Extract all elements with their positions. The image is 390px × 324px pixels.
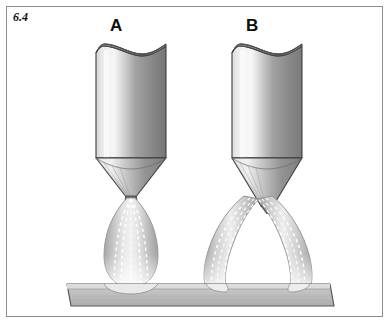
figure-stage: 6.4 A B [0,0,390,324]
target-plate [67,284,334,306]
plume-b-jet-left-fade [204,196,259,289]
nozzle-b-assembly [232,44,302,214]
nozzle-b-highlight [240,50,245,158]
plume-a [104,198,158,288]
nozzle-a-assembly [96,44,166,200]
nozzle-a-highlight [104,50,109,158]
plume-b [204,196,312,289]
nozzle-diagram-artwork [0,0,390,324]
